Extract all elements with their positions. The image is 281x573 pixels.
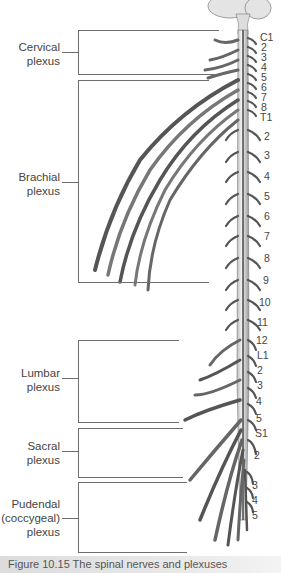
lumbar-bracket [78,340,179,423]
sacral-bracket [78,428,183,478]
label-line: Cervical [0,40,60,54]
segment-label: 2 [264,131,270,142]
segment-label: 2 [254,450,260,461]
label-line: plexus [0,525,60,539]
segment-label: 5 [256,413,262,424]
pudendal-plexus-label: Pudendal (coccygeal) plexus [0,497,60,539]
lumbar-plexus-label: Lumbar plexus [0,366,60,394]
segment-label: 3 [252,480,258,491]
segment-label: S1 [255,428,268,439]
label-line: Lumbar [0,366,60,380]
brachial-plexus-label: Brachial plexus [0,170,60,198]
label-line: plexus [0,184,60,198]
figure-caption: Figure 10.15 The spinal nerves and plexu… [0,556,281,573]
segment-label: 5 [264,191,270,202]
segment-label: 4 [264,171,270,182]
segment-label: 11 [257,317,268,328]
segment-label: 8 [264,253,270,264]
segment-label: 4 [252,495,258,506]
sacral-plexus-label: Sacral plexus [0,439,60,467]
cervical-plexus-label: Cervical plexus [0,40,60,68]
segment-label: L1 [257,350,269,361]
segment-label: 3 [257,380,263,391]
brainstem [208,0,271,34]
label-line: (coccygeal) [0,511,60,525]
cervical-leader [62,52,78,53]
label-line: plexus [0,453,60,467]
segment-label: T1 [260,112,272,123]
brachial-leader [62,182,78,183]
segment-label: 3 [264,150,270,161]
lumbar-leader [62,378,78,379]
segment-label: 12 [256,335,268,346]
segment-label: 4 [256,396,262,407]
segment-label: 7 [264,231,270,242]
pudendal-bracket [78,482,187,553]
sacral-leader [62,451,78,452]
label-line: plexus [0,54,60,68]
cervical-bracket [78,30,219,75]
segment-label: 9 [263,275,269,286]
pudendal-leader [62,518,78,519]
segment-label: 2 [257,365,263,376]
label-line: plexus [0,380,60,394]
label-line: Sacral [0,439,60,453]
segment-label: 10 [259,297,271,308]
label-line: Brachial [0,170,60,184]
label-line: Pudendal [0,497,60,511]
segment-label: 5 [252,510,258,521]
segment-label: 6 [264,211,270,222]
brachial-bracket [78,80,209,283]
